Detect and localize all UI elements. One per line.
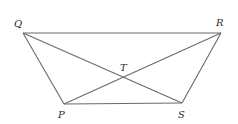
label-r: R — [215, 17, 224, 28]
segment-ps — [64, 103, 182, 104]
segment-qp — [23, 33, 64, 104]
label-t: T — [120, 62, 128, 73]
label-s: S — [178, 109, 185, 120]
trapezoid-diagram: Q R P S T — [0, 0, 238, 124]
label-p: P — [57, 109, 65, 120]
diagonal-rp — [64, 33, 221, 104]
diagonal-qs — [23, 33, 182, 103]
label-q: Q — [14, 18, 22, 29]
segment-rs — [182, 33, 221, 103]
